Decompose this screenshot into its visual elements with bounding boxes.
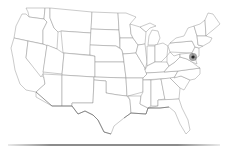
- bottom-divider: [8, 144, 220, 146]
- state-outlines: [11, 8, 220, 134]
- location-marker-icon[interactable]: [189, 53, 197, 61]
- us-map: [0, 0, 228, 147]
